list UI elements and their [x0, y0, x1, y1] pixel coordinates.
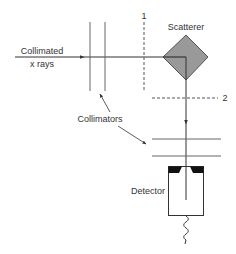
collimators-pointer-lower: [118, 126, 146, 144]
scatterer-label: Scatterer: [168, 22, 205, 32]
plane-1-label: 1: [141, 11, 146, 21]
scattering-diagram: Collimated x rays 1 Scatterer 2 Collimat…: [0, 0, 236, 254]
incoming-label-line1: Collimated: [21, 46, 64, 56]
incoming-label-line2: x rays: [30, 59, 55, 69]
detector-label: Detector: [131, 186, 165, 196]
collimators-label: Collimators: [77, 114, 123, 124]
plane-2-label: 2: [222, 93, 227, 103]
collimators-pointer-upper: [100, 94, 110, 112]
detector-cable: [184, 216, 189, 244]
